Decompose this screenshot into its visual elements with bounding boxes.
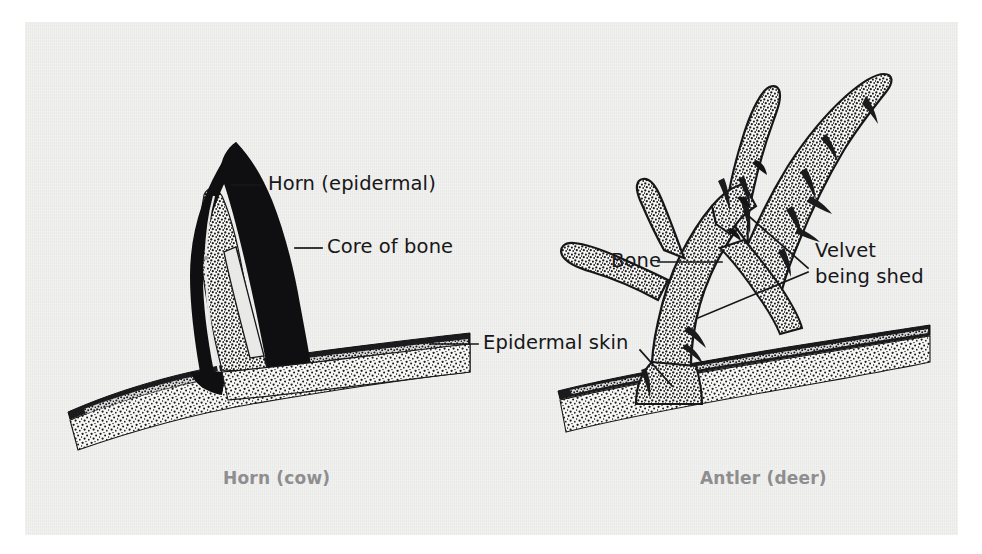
label-velvet-line1: Velvet — [815, 240, 876, 263]
caption-antler-deer: Antler (deer) — [700, 468, 827, 488]
caption-horn-cow: Horn (cow) — [223, 468, 330, 488]
label-epidermal-skin: Epidermal skin — [483, 332, 628, 355]
figure-root: Horn (epidermal) Core of bone Epidermal … — [0, 0, 982, 554]
label-core-of-bone: Core of bone — [327, 236, 453, 259]
label-bone: Bone — [611, 250, 661, 273]
label-horn-epidermal: Horn (epidermal) — [268, 173, 436, 196]
antler-brow-tine-left-upper — [637, 179, 684, 258]
label-velvet-line2: being shed — [815, 266, 924, 289]
horn-sheath-nick — [204, 256, 208, 260]
